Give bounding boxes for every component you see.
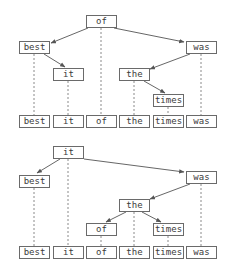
tree-2-leaf-the: the xyxy=(119,246,150,259)
tree-1-edges xyxy=(44,28,190,93)
tree-2-edges xyxy=(37,159,190,222)
tree-1-leaf-the: the xyxy=(119,115,150,128)
tree-2-leaf-best: best xyxy=(19,246,50,259)
tree-2-leaf-it: it xyxy=(53,246,84,259)
tree-1-node-of: of xyxy=(86,15,117,28)
tree-2-node-the: the xyxy=(119,199,150,212)
tree-1-leaf-was: was xyxy=(186,115,217,128)
tree-1-node-it: it xyxy=(53,68,84,81)
tree-1-leaf-times: times xyxy=(153,115,184,128)
tree-2-node-it: it xyxy=(53,146,84,159)
tree-1-node-best: best xyxy=(19,41,50,54)
tree-1-leaf-it: it xyxy=(53,115,84,128)
tree-2-leaf-of: of xyxy=(86,246,117,259)
tree-2-node-best: best xyxy=(19,175,50,188)
tree-2-node-of: of xyxy=(86,223,117,236)
tree-2-node-was: was xyxy=(186,171,217,184)
tree-1-node-times: times xyxy=(153,94,184,107)
tree-2-leaf-was: was xyxy=(186,246,217,259)
tree-2-node-times: times xyxy=(153,223,184,236)
tree-1-leaf-best: best xyxy=(19,115,50,128)
tree-1-node-the: the xyxy=(119,68,150,81)
tree-1-node-was: was xyxy=(186,41,217,54)
tree-1-leaf-of: of xyxy=(86,115,117,128)
tree-2-leaf-times: times xyxy=(153,246,184,259)
